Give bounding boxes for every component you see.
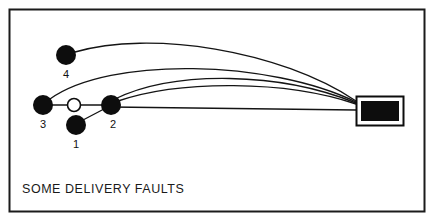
delivery-faults-diagram: 4 3 2 1 SOME DELIVERY FAULTS: [0, 0, 434, 221]
node-4-label: 4: [63, 68, 69, 80]
figure-caption: SOME DELIVERY FAULTS: [22, 182, 184, 196]
delivery-target-box[interactable]: [357, 97, 404, 126]
target-inner-fill: [361, 101, 399, 121]
node-1-label: 1: [73, 138, 79, 150]
figure-root: 4 3 2 1 SOME DELIVERY FAULTS: [0, 0, 434, 221]
node-3[interactable]: [33, 95, 53, 115]
node-4[interactable]: [56, 45, 76, 65]
node-3-label: 3: [40, 118, 46, 130]
node-2[interactable]: [101, 95, 121, 115]
node-1[interactable]: [66, 115, 86, 135]
node-hollow-intermediate[interactable]: [68, 99, 81, 112]
node-2-label: 2: [110, 118, 116, 130]
